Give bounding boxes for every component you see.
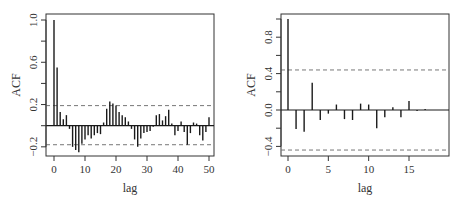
plot-frame [46,14,214,156]
x-tick-label: 10 [80,163,92,175]
y-axis-title: ACF [9,73,23,97]
plot-frame [281,14,449,156]
acf-plot-right: −0.40.00.40.8051015lagACF [229,0,458,208]
x-tick-label: 0 [285,163,291,175]
x-tick-label: 50 [204,163,216,175]
y-axis-title: ACF [244,73,258,97]
y-tick-label: 0.0 [262,103,274,117]
acf-chart-right: −0.40.00.40.8051015lagACF [229,0,458,208]
acf-chart-left: −0.20.20.61.001020304050lagACF [0,0,229,208]
x-tick-label: 10 [363,163,375,175]
x-axis-title: lag [123,181,138,195]
acf-plot-left: −0.20.20.61.001020304050lagACF [0,0,229,208]
y-tick-label: −0.2 [27,137,39,157]
x-tick-label: 20 [111,163,123,175]
y-tick-label: 0.2 [27,98,39,112]
y-tick-label: 0.4 [262,66,274,80]
x-tick-label: 15 [404,163,416,175]
x-tick-label: 5 [326,163,332,175]
y-tick-label: −0.4 [262,136,274,156]
y-tick-label: 0.6 [27,55,39,69]
x-tick-label: 30 [142,163,154,175]
y-tick-label: 1.0 [27,13,39,27]
x-axis-title: lag [358,181,373,195]
x-tick-label: 40 [173,163,185,175]
x-tick-label: 0 [51,163,57,175]
y-tick-label: 0.8 [262,30,274,44]
